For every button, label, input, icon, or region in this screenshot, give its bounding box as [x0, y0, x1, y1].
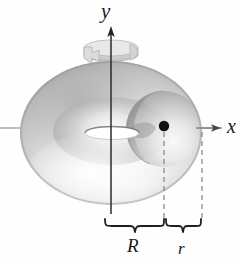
generating-circle-center-point	[159, 121, 169, 131]
figure-canvas	[0, 0, 243, 262]
torus-figure: y x R r	[0, 0, 243, 262]
brace-r-label: r	[178, 240, 185, 257]
y-axis-label: y	[101, 1, 110, 22]
brace-R-label: R	[127, 236, 139, 255]
x-axis-label: x	[227, 116, 236, 136]
